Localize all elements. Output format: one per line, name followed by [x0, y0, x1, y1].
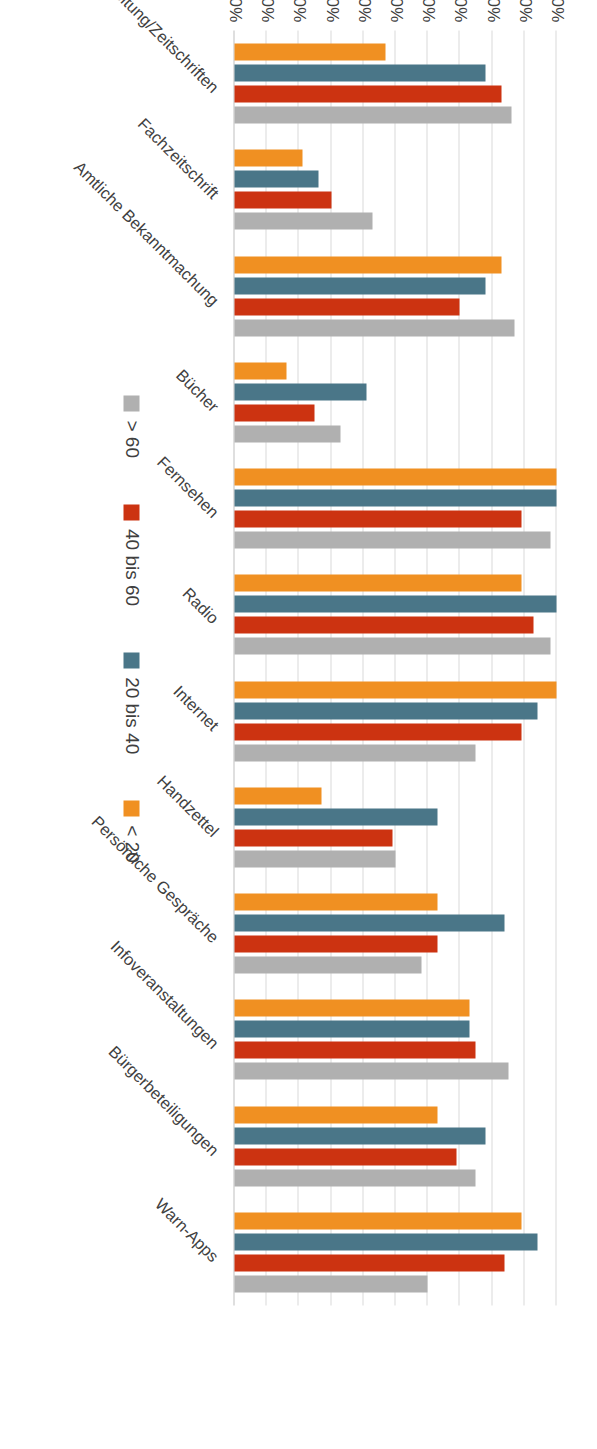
bar[interactable]	[234, 1041, 476, 1058]
bar[interactable]	[234, 212, 372, 229]
legend-label: < 20	[120, 825, 142, 863]
bar[interactable]	[234, 531, 550, 548]
bar[interactable]	[234, 1233, 537, 1250]
value-tick-label: 90%	[514, 0, 534, 22]
legend-swatch-icon	[123, 395, 139, 411]
bar-group: Persönliche Gespräche	[234, 880, 556, 986]
bar[interactable]	[234, 404, 315, 421]
bar-group: Warn-Apps	[234, 1199, 556, 1305]
category-label: Handzettel	[153, 771, 222, 840]
category-label: Infoveranstaltungen	[106, 937, 222, 1053]
bar[interactable]	[234, 468, 556, 485]
bar[interactable]	[234, 191, 331, 208]
bar[interactable]	[234, 637, 550, 654]
category-label: Zeitung/Zeitschriften	[103, 0, 222, 97]
bar[interactable]	[234, 893, 437, 910]
bar[interactable]	[234, 362, 286, 379]
bar-group: Amtliche Bekanntmachung	[234, 243, 556, 349]
bar[interactable]	[234, 744, 476, 761]
bar-group: Handzettel	[234, 774, 556, 880]
bar-group: Internet	[234, 668, 556, 774]
bar-group: Fachzeitschrift	[234, 136, 556, 242]
bar[interactable]	[234, 999, 469, 1016]
value-tick-label: 30%	[321, 0, 341, 22]
bar[interactable]	[234, 256, 501, 273]
bar[interactable]	[234, 1254, 504, 1271]
bar[interactable]	[234, 787, 321, 804]
bar[interactable]	[234, 383, 366, 400]
bar-group: Fernsehen	[234, 455, 556, 561]
value-tick-label: 100%	[546, 0, 566, 22]
bar[interactable]	[234, 829, 392, 846]
value-tick-label: 50%	[385, 0, 405, 22]
chart-figure: 0%10%20%30%40%50%60%70%80%90%100%Zeitung…	[0, 0, 597, 1449]
bar[interactable]	[234, 64, 485, 81]
bar-group: Radio	[234, 561, 556, 667]
bar-group: Bürgerbeteiligungen	[234, 1093, 556, 1199]
bar[interactable]	[234, 85, 501, 102]
bar[interactable]	[234, 170, 318, 187]
plot-area: 0%10%20%30%40%50%60%70%80%90%100%Zeitung…	[234, 30, 556, 1305]
category-label: Fachzeitschrift	[133, 114, 222, 203]
value-tick-label: 60%	[417, 0, 437, 22]
bar[interactable]	[234, 956, 421, 973]
bar[interactable]	[234, 489, 556, 506]
legend-swatch-icon	[123, 504, 139, 520]
bar[interactable]	[234, 574, 521, 591]
bar-group: Zeitung/Zeitschriften	[234, 30, 556, 136]
bar[interactable]	[234, 616, 533, 633]
bar[interactable]	[234, 106, 511, 123]
bar[interactable]	[234, 850, 395, 867]
bar[interactable]	[234, 935, 437, 952]
legend-item[interactable]: < 20	[120, 800, 142, 863]
bar[interactable]	[234, 808, 437, 825]
bar[interactable]	[234, 1127, 485, 1144]
legend-label: 20 bis 40	[120, 677, 142, 754]
bar[interactable]	[234, 298, 459, 315]
bar[interactable]	[234, 43, 385, 60]
bar[interactable]	[234, 510, 521, 527]
bar[interactable]	[234, 702, 537, 719]
bar[interactable]	[234, 319, 514, 336]
bar[interactable]	[234, 1275, 427, 1292]
bar[interactable]	[234, 681, 556, 698]
rotated-figure-wrapper: 0%10%20%30%40%50%60%70%80%90%100%Zeitung…	[0, 0, 597, 1449]
bar[interactable]	[234, 1020, 469, 1037]
bar[interactable]	[234, 425, 340, 442]
category-label: Radio	[178, 584, 222, 628]
value-tick-label: 40%	[353, 0, 373, 22]
bar-group: Bücher	[234, 349, 556, 455]
bar[interactable]	[234, 149, 302, 166]
legend-label: > 60	[120, 420, 142, 458]
bar[interactable]	[234, 595, 556, 612]
legend-swatch-icon	[123, 652, 139, 668]
category-label: Bürgerbeteiligungen	[104, 1041, 222, 1159]
bar[interactable]	[234, 1212, 521, 1229]
bar[interactable]	[234, 914, 504, 931]
category-label: Fernsehen	[153, 452, 222, 521]
chart-legend: > 6040 bis 6020 bis 40< 20	[120, 395, 142, 862]
bar[interactable]	[234, 1062, 508, 1079]
legend-swatch-icon	[123, 800, 139, 816]
bar[interactable]	[234, 1148, 456, 1165]
value-tick-label: 80%	[482, 0, 502, 22]
legend-label: 40 bis 60	[120, 529, 142, 606]
bar[interactable]	[234, 1169, 476, 1186]
legend-item[interactable]: 40 bis 60	[120, 504, 142, 606]
legend-item[interactable]: > 60	[120, 395, 142, 458]
value-tick-label: 70%	[449, 0, 469, 22]
bar-group: Infoveranstaltungen	[234, 986, 556, 1092]
bar[interactable]	[234, 723, 521, 740]
legend-item[interactable]: 20 bis 40	[120, 652, 142, 754]
bar[interactable]	[234, 1106, 437, 1123]
value-tick-label: 20%	[288, 0, 308, 22]
category-label: Warn-Apps	[151, 1194, 222, 1265]
category-label: Bücher	[172, 365, 222, 415]
category-label: Internet	[169, 681, 222, 734]
value-tick-label: 0%	[224, 0, 244, 22]
value-tick-label: 10%	[256, 0, 276, 22]
bar[interactable]	[234, 277, 485, 294]
